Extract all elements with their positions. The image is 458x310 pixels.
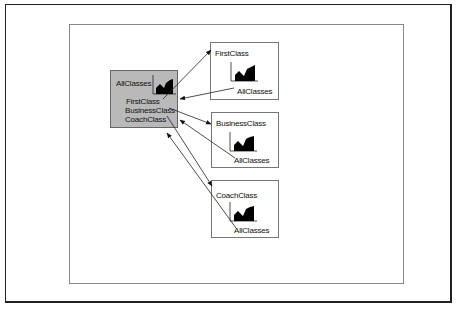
arrow-firstclass-forward [163,50,211,99]
connector-arrows [0,0,458,310]
arrow-businessclass-forward [169,108,211,124]
arrow-businessclass-back [180,120,235,158]
arrow-coachclass-back [167,133,236,228]
arrow-firstclass-back [180,88,234,99]
